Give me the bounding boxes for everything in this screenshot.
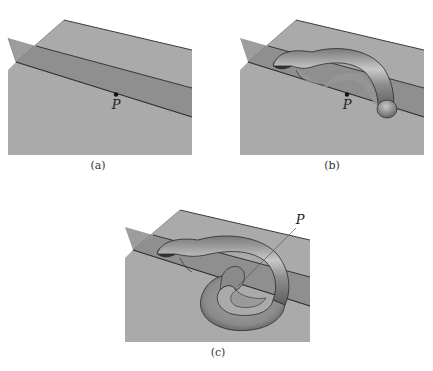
point-p-label-c: P xyxy=(296,212,305,227)
caption-a: (a) xyxy=(90,159,105,172)
figure-canvas xyxy=(0,0,433,371)
panel-c xyxy=(125,210,310,342)
point-p-label-b: P xyxy=(343,97,352,112)
caption-c: (c) xyxy=(211,346,226,359)
panel-a xyxy=(8,20,192,155)
panel-b xyxy=(240,20,424,155)
tube-end-cap xyxy=(377,100,397,118)
caption-b: (b) xyxy=(324,159,340,172)
point-p-label-a: P xyxy=(112,97,121,112)
